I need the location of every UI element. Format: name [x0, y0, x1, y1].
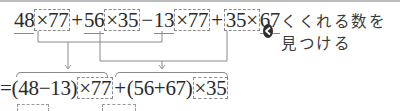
group2-common-factor: ×35 [193, 77, 229, 99]
group1: (48−13) [12, 76, 78, 100]
equals-sign: = [0, 76, 12, 100]
partial-box-left [17, 104, 49, 111]
group2: (56+67) [127, 76, 193, 100]
group1-common-factor: ×77 [77, 77, 113, 99]
operator-plus: + [113, 76, 127, 100]
partial-box-right [102, 104, 136, 111]
factored-expression: =(48−13)×77+(56+67)×35 [0, 76, 228, 101]
connector-35-group [100, 31, 227, 61]
